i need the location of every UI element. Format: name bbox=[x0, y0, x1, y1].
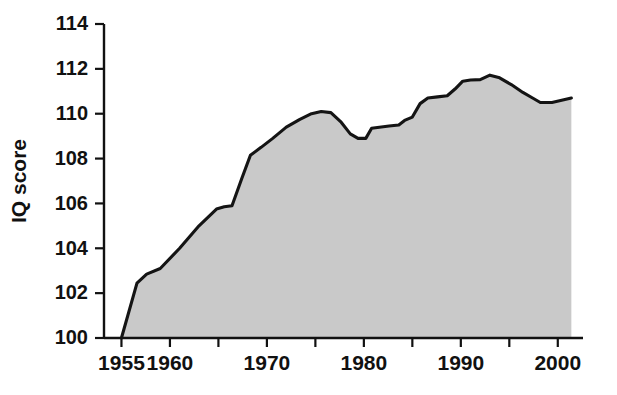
y-tick-label: 104 bbox=[55, 237, 89, 259]
series-area-fill bbox=[121, 75, 571, 338]
y-axis-ticks: 100102104106108110112114 bbox=[55, 12, 104, 348]
x-tick-label: 1955 bbox=[98, 351, 145, 374]
x-tick-label: 1990 bbox=[437, 351, 484, 374]
x-tick-label: 2000 bbox=[534, 351, 581, 374]
chart-figure: 100102104106108110112114 195519601970198… bbox=[0, 0, 617, 395]
y-tick-label: 108 bbox=[55, 147, 88, 169]
x-axis-ticks: 195519601970198019902000 bbox=[98, 338, 581, 374]
x-tick-label: 1980 bbox=[341, 351, 388, 374]
y-tick-label: 100 bbox=[55, 326, 88, 348]
y-tick-label: 102 bbox=[55, 281, 88, 303]
y-tick-label: 112 bbox=[56, 57, 88, 79]
iq-score-area-chart: 100102104106108110112114 195519601970198… bbox=[0, 0, 617, 395]
y-tick-label: 114 bbox=[56, 12, 89, 34]
y-tick-label: 110 bbox=[56, 102, 88, 124]
y-axis-title: IQ score bbox=[7, 139, 30, 223]
x-tick-label: 1960 bbox=[147, 351, 194, 374]
y-tick-label: 106 bbox=[55, 192, 88, 214]
x-tick-label: 1970 bbox=[244, 351, 291, 374]
